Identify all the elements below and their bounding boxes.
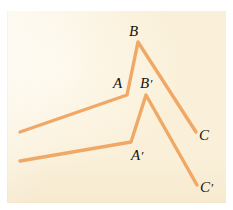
label-A-prime-prime-mark: ′ — [140, 148, 143, 163]
polyline-group — [20, 42, 197, 185]
label-C-prime: C′ — [200, 180, 213, 195]
label-B-prime-prime-mark: ′ — [149, 76, 152, 91]
polyline-ABC — [20, 42, 196, 132]
label-A-prime-text: A — [131, 147, 140, 163]
label-C: C — [199, 128, 209, 143]
label-C-text: C — [199, 127, 209, 143]
polyline-diagram — [0, 0, 233, 210]
polyline-A-prime-B-prime-C-prime — [20, 95, 197, 185]
label-C-prime-prime-mark: ′ — [210, 180, 213, 195]
label-B-prime: B′ — [140, 76, 152, 91]
label-A: A — [113, 76, 122, 91]
label-A-text: A — [113, 75, 122, 91]
label-B-prime-text: B — [140, 75, 149, 91]
label-A-prime: A′ — [131, 148, 143, 163]
label-B-text: B — [129, 23, 138, 39]
label-C-prime-text: C — [200, 179, 210, 195]
label-B: B — [129, 24, 138, 39]
geometry-figure: A B C A′ B′ C′ — [0, 0, 233, 210]
